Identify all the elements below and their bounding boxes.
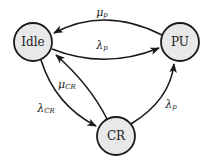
node-pu-label: PU — [171, 35, 189, 49]
edge-label-lambda-p-top: λp — [95, 39, 108, 53]
node-idle: Idle — [14, 23, 52, 61]
edge-label-lambda-cr: λCR — [36, 102, 55, 116]
edge-idle-to-cr — [41, 60, 96, 126]
edge-label-lambda-p-bottom: λp — [164, 98, 177, 112]
edge-label-mu-p: μp — [96, 6, 108, 20]
state-diagram: μp λp μCR λCR λp Idle PU CR — [0, 0, 211, 162]
node-pu: PU — [161, 23, 199, 61]
edge-cr-to-pu — [131, 64, 174, 124]
edge-label-mu-cr: μCR — [58, 78, 77, 92]
node-idle-label: Idle — [21, 35, 44, 49]
node-cr-label: CR — [107, 129, 126, 143]
node-cr: CR — [97, 117, 135, 155]
edge-pu-to-idle — [54, 20, 162, 35]
